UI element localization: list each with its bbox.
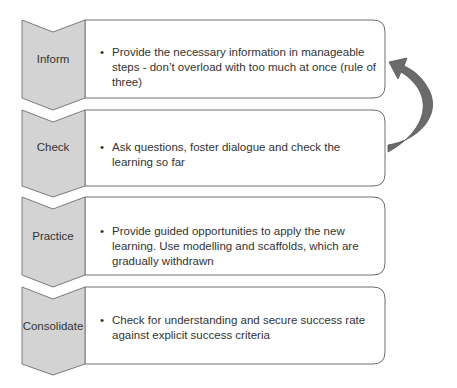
stage-description-inform: Provide the necessary information in man… xyxy=(100,45,382,90)
stage-description-consolidate: Check for understanding and secure succe… xyxy=(100,313,382,343)
feedback-arrow-icon xyxy=(388,58,433,152)
stage-description-text: Provide guided opportunities to apply th… xyxy=(112,224,382,269)
chevron-check xyxy=(22,110,85,197)
chevron-inform xyxy=(22,20,85,110)
bullet-icon xyxy=(100,140,112,170)
stage-description-text: Check for understanding and secure succe… xyxy=(112,313,382,343)
stage-label-check: Check xyxy=(21,141,85,153)
bullet-icon xyxy=(100,224,112,269)
learning-process-diagram: Inform Check Practice Consolidate Provid… xyxy=(0,0,457,388)
stage-label-practice: Practice xyxy=(21,230,85,242)
bullet-icon xyxy=(100,313,112,343)
stage-description-check: Ask questions, foster dialogue and check… xyxy=(100,140,382,170)
chevron-practice xyxy=(22,197,85,287)
stage-label-inform: Inform xyxy=(21,53,85,65)
stage-label-consolidate: Consolidate xyxy=(21,320,85,332)
stage-description-practice: Provide guided opportunities to apply th… xyxy=(100,224,382,269)
bullet-icon xyxy=(100,45,112,90)
stage-description-text: Provide the necessary information in man… xyxy=(112,45,382,90)
stage-description-text: Ask questions, foster dialogue and check… xyxy=(112,140,382,170)
